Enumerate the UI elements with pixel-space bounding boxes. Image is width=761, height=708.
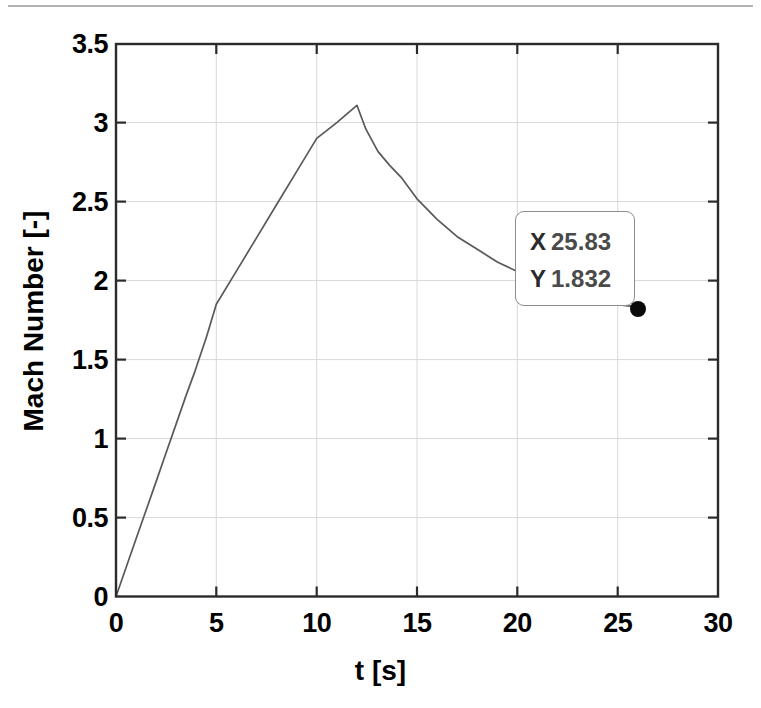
y-axis-title-container: Mach Number [-] xyxy=(12,44,56,597)
plot-canvas xyxy=(0,0,761,708)
x-tick-label-25: 25 xyxy=(603,608,632,639)
x-tick-label-5: 5 xyxy=(209,608,224,639)
data-tip-callout[interactable]: X25.83 Y1.832 xyxy=(515,211,635,306)
data-tip-x-value: 25.83 xyxy=(551,228,611,255)
y-tick-label-1: 1 xyxy=(62,423,108,454)
x-tick-label-30: 30 xyxy=(703,608,732,639)
y-tick-label-0: 0 xyxy=(62,581,108,612)
y-tick-label-3: 3 xyxy=(62,107,108,138)
x-tick-label-10: 10 xyxy=(302,608,331,639)
data-tip-row-x: X25.83 xyxy=(530,223,634,260)
data-tip-y-value: 1.832 xyxy=(551,265,611,292)
data-point-marker-dot[interactable] xyxy=(630,301,646,317)
data-tip-y-label: Y xyxy=(530,265,546,292)
x-axis-title: t [s] xyxy=(0,655,761,687)
chart-figure: 0 0.5 1 1.5 2 2.5 3 3.5 0 5 10 15 20 25 … xyxy=(0,0,761,708)
x-tick-label-15: 15 xyxy=(402,608,431,639)
mach-number-series-line xyxy=(116,105,634,596)
x-tick-label-20: 20 xyxy=(503,608,532,639)
data-tip-row-y: Y1.832 xyxy=(530,260,634,297)
vertical-gridlines xyxy=(216,44,617,597)
y-tick-label-2: 2 xyxy=(62,265,108,296)
y-axis-title: Mach Number [-] xyxy=(18,210,50,431)
x-tick-label-0: 0 xyxy=(109,608,124,639)
data-tip-x-label: X xyxy=(530,228,546,255)
